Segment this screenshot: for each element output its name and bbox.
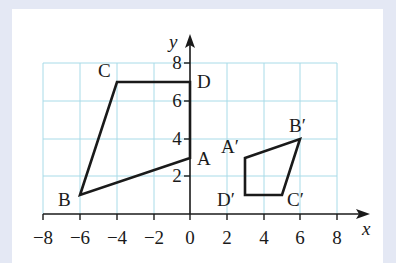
vertex-label-d: D	[197, 71, 211, 92]
x-tick-label: 6	[295, 227, 305, 248]
vertex-label-a-prime: A′	[221, 136, 239, 157]
y-tick-label: 6	[172, 90, 182, 111]
x-tick-labels: −8 −6 −4 −2 0 2 4 6 8	[33, 227, 342, 248]
x-tick-label: −2	[144, 227, 164, 248]
y-tick-label: 2	[172, 165, 182, 186]
vertex-label-a: A	[197, 148, 211, 169]
x-tick-label: 8	[332, 227, 342, 248]
y-tick-label: 8	[172, 52, 182, 73]
y-tick-labels: 2 4 6 8	[172, 52, 182, 186]
vertex-label-b-prime: B′	[289, 115, 306, 136]
vertex-label-b: B	[58, 189, 71, 210]
vertex-label-c: C	[98, 60, 111, 81]
coordinate-plane: −8 −6 −4 −2 0 2 4 6 8 2 4 6 8 x y A B C …	[0, 0, 396, 263]
x-tick-label: 2	[222, 227, 232, 248]
x-tick-label: 4	[259, 227, 269, 248]
vertex-label-c-prime: C′	[287, 189, 304, 210]
x-tick-label: 0	[185, 227, 195, 248]
x-tick-label: −4	[107, 227, 128, 248]
x-axis-label: x	[361, 218, 371, 239]
y-axis-label: y	[167, 31, 178, 52]
x-tick-label: −6	[70, 227, 90, 248]
y-tick-label: 4	[172, 128, 182, 149]
vertex-label-d-prime: D′	[217, 189, 235, 210]
x-tick-label: −8	[33, 227, 53, 248]
quadrilateral-a-prime-b-prime-c-prime-d-prime	[245, 139, 300, 195]
